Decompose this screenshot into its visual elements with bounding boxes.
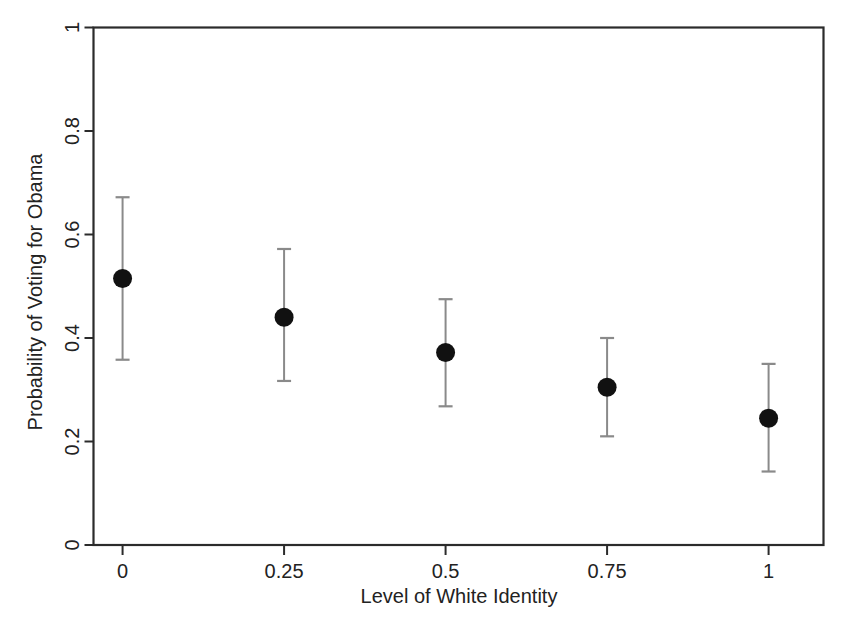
- data-series: [113, 197, 778, 471]
- x-tick-label: 0.75: [588, 560, 627, 582]
- y-axis-title: Probability of Voting for Obama: [24, 153, 46, 431]
- data-point-marker: [113, 269, 132, 288]
- y-tick-label: 0.2: [61, 428, 83, 456]
- data-point-marker: [598, 378, 617, 397]
- x-tick-label: 0.5: [432, 560, 460, 582]
- chart-canvas: 00.20.40.60.81 00.250.50.751 Level of Wh…: [0, 0, 846, 632]
- data-point-marker: [759, 409, 778, 428]
- data-point-group: [113, 197, 132, 359]
- data-point-group: [759, 364, 778, 472]
- y-tick-label: 0.8: [61, 117, 83, 145]
- data-point-marker: [275, 308, 294, 327]
- x-tick-label: 0: [117, 560, 128, 582]
- plot-frame: [94, 28, 824, 546]
- data-point-group: [598, 338, 617, 436]
- x-axis-title: Level of White Identity: [361, 585, 558, 607]
- chart-figure: 00.20.40.60.81 00.250.50.751 Level of Wh…: [0, 0, 846, 632]
- data-point-group: [275, 249, 294, 381]
- y-tick-label: 0.6: [61, 221, 83, 249]
- x-tick-label: 0.25: [265, 560, 304, 582]
- data-point-group: [436, 299, 455, 406]
- x-tick-label: 1: [763, 560, 774, 582]
- x-axis: 00.250.50.751: [117, 545, 774, 582]
- y-axis: 00.20.40.60.81: [61, 22, 94, 551]
- data-point-marker: [436, 343, 455, 362]
- y-tick-label: 0.4: [61, 324, 83, 352]
- y-tick-label: 0: [61, 539, 83, 550]
- y-tick-label: 1: [61, 22, 83, 33]
